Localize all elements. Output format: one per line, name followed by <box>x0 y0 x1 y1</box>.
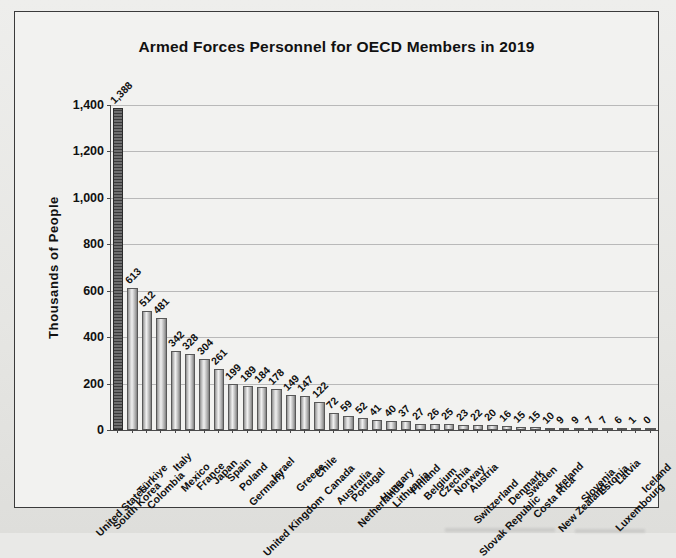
bar-slot: 7 <box>586 105 600 430</box>
x-tick-mark <box>146 429 147 433</box>
x-tick-mark <box>578 429 579 433</box>
x-axis-labels: United StatesSouth KoreaTürkiyeColombiaI… <box>110 433 657 533</box>
x-tick-mark <box>405 429 406 433</box>
x-tick-mark <box>549 429 550 433</box>
x-tick-mark <box>247 429 248 433</box>
bar-slot: 6 <box>615 105 629 430</box>
bar[interactable]: 122 <box>314 402 324 430</box>
x-tick-mark <box>132 429 133 433</box>
bar-slot: 149 <box>284 105 298 430</box>
x-tick-mark <box>290 429 291 433</box>
x-tick-mark <box>607 429 608 433</box>
chart-title: Armed Forces Personnel for OECD Members … <box>15 38 658 56</box>
x-tick-mark <box>491 429 492 433</box>
x-tick-mark <box>563 429 564 433</box>
y-tick-label: 200 <box>83 377 104 391</box>
bar-slot: 7 <box>600 105 614 430</box>
x-tick-mark <box>304 429 305 433</box>
y-tick-label: 800 <box>83 237 104 251</box>
bar[interactable]: 261 <box>214 369 224 430</box>
bar-slot: 304 <box>197 105 211 430</box>
x-tick-mark <box>348 429 349 433</box>
bar-slot: 184 <box>255 105 269 430</box>
bar[interactable]: 184 <box>257 387 267 430</box>
bar-slot: 23 <box>456 105 470 430</box>
bar-slot: 147 <box>298 105 312 430</box>
bar[interactable]: 59 <box>343 416 353 430</box>
bar-slot: 261 <box>212 105 226 430</box>
bar-series: 1,38861351248134232830426119918918417814… <box>111 105 658 430</box>
x-tick-mark <box>376 429 377 433</box>
x-tick-mark <box>592 429 593 433</box>
x-tick-mark <box>117 429 118 433</box>
plot-area: 02004006008001,0001,2001,400 1,388613512… <box>110 105 658 431</box>
bar[interactable]: 147 <box>300 396 310 430</box>
bar[interactable]: 613 <box>127 288 137 430</box>
bar-value-label: 72 <box>324 395 341 412</box>
x-tick-mark <box>175 429 176 433</box>
bar[interactable]: 178 <box>271 389 281 430</box>
x-axis-category-label: United Kingdom <box>260 492 326 558</box>
bar-slot: 59 <box>341 105 355 430</box>
bar-slot: 22 <box>471 105 485 430</box>
x-axis-category-label: Italy <box>170 450 193 473</box>
bar-value-label: 1,388 <box>108 79 135 106</box>
x-tick-mark <box>232 429 233 433</box>
x-tick-mark <box>391 429 392 433</box>
x-tick-mark <box>261 429 262 433</box>
bar-slot: 199 <box>226 105 240 430</box>
bar-slot: 512 <box>140 105 154 430</box>
scan-artifact-right <box>575 529 645 533</box>
x-tick-mark <box>204 429 205 433</box>
bar-slot: 72 <box>327 105 341 430</box>
bar[interactable]: 304 <box>199 359 209 430</box>
y-tick-label: 1,000 <box>73 191 104 205</box>
bar-slot: 328 <box>183 105 197 430</box>
bar-slot: 1 <box>629 105 643 430</box>
scan-artifact-left <box>445 528 555 532</box>
bar-slot: 9 <box>572 105 586 430</box>
y-axis-title-text: Thousands of People <box>46 196 61 339</box>
x-tick-mark <box>434 429 435 433</box>
bar-slot: 52 <box>356 105 370 430</box>
bar[interactable]: 512 <box>142 311 152 430</box>
bar[interactable]: 199 <box>228 384 238 430</box>
bar-slot: 16 <box>500 105 514 430</box>
bar-slot: 10 <box>543 105 557 430</box>
x-tick-mark <box>218 429 219 433</box>
bar-slot: 27 <box>413 105 427 430</box>
bar-slot: 122 <box>312 105 326 430</box>
x-tick-mark <box>189 429 190 433</box>
chart-frame: Armed Forces Personnel for OECD Members … <box>14 11 659 508</box>
x-tick-mark <box>635 429 636 433</box>
bar-slot: 9 <box>557 105 571 430</box>
y-tick-label: 1,200 <box>73 144 104 158</box>
bar-slot: 20 <box>485 105 499 430</box>
bar[interactable]: 149 <box>286 395 296 430</box>
x-tick-mark <box>463 429 464 433</box>
x-tick-mark <box>362 429 363 433</box>
bar-slot: 37 <box>399 105 413 430</box>
bar[interactable]: 189 <box>243 386 253 430</box>
y-axis-title: Thousands of People <box>43 105 63 430</box>
y-tick-label: 600 <box>83 284 104 298</box>
x-tick-mark <box>520 429 521 433</box>
x-tick-mark <box>333 429 334 433</box>
bar-slot: 1,388 <box>111 105 125 430</box>
x-tick-mark <box>477 429 478 433</box>
bar-slot: 15 <box>528 105 542 430</box>
x-axis-category-label: Luxembourg <box>613 480 666 533</box>
bar[interactable]: 328 <box>185 354 195 430</box>
x-tick-mark <box>448 429 449 433</box>
bar[interactable]: 1,388 <box>113 108 123 430</box>
bar-slot: 178 <box>269 105 283 430</box>
x-tick-mark <box>650 429 651 433</box>
x-tick-mark <box>535 429 536 433</box>
bar-slot: 25 <box>442 105 456 430</box>
bar[interactable]: 72 <box>329 413 339 430</box>
bar[interactable]: 481 <box>156 318 166 430</box>
bar-slot: 481 <box>154 105 168 430</box>
bar[interactable]: 342 <box>171 351 181 430</box>
x-tick-mark <box>506 429 507 433</box>
y-tick-label: 0 <box>97 423 104 437</box>
